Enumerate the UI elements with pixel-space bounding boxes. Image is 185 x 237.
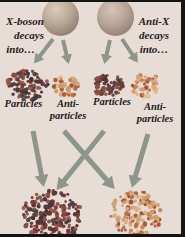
caption-line: Anti-X xyxy=(131,14,177,28)
anti-x-caption: Anti-X decays into… xyxy=(131,14,177,56)
cluster-particles-2 xyxy=(94,74,125,97)
label-line: particles xyxy=(130,113,180,125)
caption-line: decays xyxy=(131,28,177,42)
label-anti-particles-2: Anti- particles xyxy=(130,101,180,125)
label-line: Anti- xyxy=(130,101,180,113)
cluster-antimatter-result xyxy=(110,190,163,237)
label-line: particles xyxy=(45,110,91,122)
caption-line: into… xyxy=(0,42,44,56)
label-particles-1: Particles xyxy=(0,98,47,110)
caption-line: into… xyxy=(131,42,177,56)
caption-line: decays xyxy=(0,28,44,42)
cluster-anti-particles-1 xyxy=(52,75,80,97)
caption-line: X-boson xyxy=(0,14,44,28)
label-anti-particles-1: Anti- particles xyxy=(45,98,91,122)
cluster-anti-particles-2 xyxy=(131,73,159,99)
cluster-particles-1 xyxy=(6,69,50,102)
x-boson-caption: X-boson decays into… xyxy=(0,14,44,56)
cluster-matter-result xyxy=(22,189,83,237)
decay-diagram: X-boson decays into… Anti-X decays into…… xyxy=(0,0,185,237)
label-line: Anti- xyxy=(45,98,91,110)
